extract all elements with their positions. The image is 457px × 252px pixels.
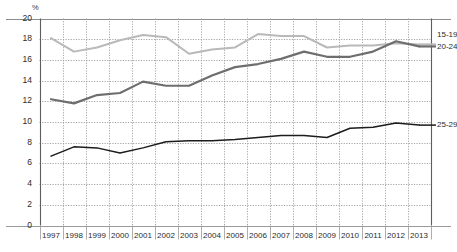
y-tick-12: 12 (6, 96, 32, 105)
x-tick-1997: 1997 (40, 231, 63, 241)
x-tick-2013: 2013 (408, 231, 431, 241)
x-tick-2010: 2010 (339, 231, 362, 241)
y-tick-0: 0 (6, 221, 32, 230)
y-tick-18: 18 (6, 34, 32, 43)
y-tick-10: 10 (6, 117, 32, 126)
x-tick-2002: 2002 (155, 231, 178, 241)
y-tick-8: 8 (6, 138, 32, 147)
x-tick-1999: 1999 (86, 231, 109, 241)
x-tick-2005: 2005 (224, 231, 247, 241)
x-tick-2000: 2000 (109, 231, 132, 241)
line-chart: % 20181614121086420 19971998199920002001… (0, 0, 457, 252)
y-tick-20: 20 (6, 14, 32, 23)
chart-canvas (0, 0, 457, 252)
x-tick-2008: 2008 (293, 231, 316, 241)
series-label-20-24: 20-24 (437, 42, 457, 51)
series-label-15-19: 15-19 (437, 30, 457, 39)
x-tick-2009: 2009 (316, 231, 339, 241)
series-line-25-29 (51, 123, 419, 156)
series-label-25-29: 25-29 (437, 120, 457, 129)
x-tick-2003: 2003 (178, 231, 201, 241)
x-tick-1998: 1998 (63, 231, 86, 241)
x-tick-2006: 2006 (247, 231, 270, 241)
y-tick-4: 4 (6, 179, 32, 188)
series-line-20-24 (51, 41, 419, 103)
x-tick-2004: 2004 (201, 231, 224, 241)
x-tick-2011: 2011 (362, 231, 385, 241)
y-tick-14: 14 (6, 76, 32, 85)
x-tick-2001: 2001 (132, 231, 155, 241)
y-tick-16: 16 (6, 55, 32, 64)
x-tick-2012: 2012 (385, 231, 408, 241)
y-tick-2: 2 (6, 200, 32, 209)
x-tick-2007: 2007 (270, 231, 293, 241)
series-line-15-19 (51, 34, 419, 54)
y-tick-6: 6 (6, 158, 32, 167)
